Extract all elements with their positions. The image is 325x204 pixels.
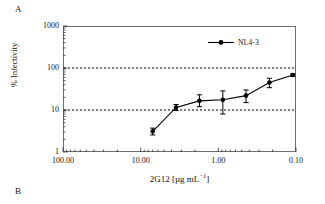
y-axis-title: % Infectivity xyxy=(9,20,19,110)
y-tick-label: 1 xyxy=(25,147,59,156)
figure-panel-a: A B % Infectivity 2G12 [µg mL−1] NL4-3 1… xyxy=(0,0,325,204)
legend: NL4-3 xyxy=(208,38,259,47)
legend-label-nl43: NL4-3 xyxy=(238,38,259,47)
x-tick-label: 100.00 xyxy=(41,156,85,165)
y-tick-label: 10 xyxy=(25,105,59,114)
x-tick-label: 10.00 xyxy=(119,156,163,165)
x-axis-title-close: ] xyxy=(206,174,209,184)
x-axis-title: 2G12 [µg mL−1] xyxy=(63,172,296,184)
x-tick-label: 0.10 xyxy=(274,156,318,165)
legend-marker-icon xyxy=(208,38,234,47)
panel-label-a: A xyxy=(15,4,22,14)
plot-area xyxy=(63,26,296,152)
y-tick-label: 100 xyxy=(25,63,59,72)
y-tick-label: 1000 xyxy=(25,21,59,30)
x-axis-title-base: 2G12 [µg mL xyxy=(150,174,200,184)
x-tick-label: 1.00 xyxy=(196,156,240,165)
panel-label-b: B xyxy=(15,186,21,196)
